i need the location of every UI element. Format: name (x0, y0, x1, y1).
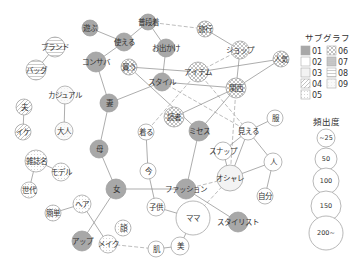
node-ryoko[interactable]: 旅行 (197, 21, 213, 37)
node-label: 人 (270, 158, 278, 167)
node-item[interactable]: アイテム (184, 62, 212, 82)
node-fuku[interactable]: 服 (267, 110, 283, 126)
node-label: 美 (177, 241, 185, 251)
node-kao[interactable]: 顔 (115, 220, 131, 236)
legend-swatch (327, 68, 336, 77)
legend-swatch (301, 68, 310, 77)
node-bi[interactable]: 美 (171, 237, 189, 255)
node-kiru[interactable]: 着る (138, 124, 154, 140)
legend-subgraph-03: 03 (301, 68, 322, 78)
node-ike[interactable]: イケ (15, 124, 31, 140)
legend-swatch (301, 90, 310, 99)
node-mama[interactable]: ママ (176, 201, 210, 235)
node-label: ブランド (41, 42, 69, 52)
node-fashion[interactable]: ファッション (165, 179, 207, 199)
legend-label: 04 (312, 80, 322, 89)
frequency-label: ~25 (319, 134, 333, 142)
node-model[interactable]: モデル (51, 163, 73, 181)
legend-swatch (327, 79, 336, 88)
node-odekake[interactable]: お出かけ (152, 39, 180, 57)
node-casual[interactable]: カジュアル (48, 86, 83, 104)
node-missus[interactable]: ミセス (189, 121, 210, 141)
node-label: スタイル (148, 78, 177, 87)
node-snap[interactable]: スナップ (209, 142, 238, 160)
node-label: 世代 (22, 185, 37, 195)
legend-subgraph-04: 04 (301, 79, 322, 89)
node-label: スタイリスト (217, 218, 259, 227)
node-label: 買う (122, 63, 136, 72)
node-zasshimei[interactable]: 雑誌名 (25, 150, 47, 172)
node-otona[interactable]: 大人 (55, 122, 73, 140)
node-label: 旅行 (198, 24, 213, 34)
node-label: 関西 (229, 84, 244, 93)
frequency-legend-title: 頻出度 (313, 117, 340, 127)
node-label: 妻 (106, 98, 114, 108)
node-label: 母 (96, 145, 104, 154)
legend: サブグラフ 010203040506070809 頻出度 ~2550100150… (301, 33, 350, 250)
node-ninki[interactable]: 人気 (273, 51, 289, 67)
node-shop[interactable]: ショップ (226, 41, 255, 59)
legend-subgraph-05: 05 (301, 90, 322, 100)
legend-swatch (301, 46, 310, 55)
node-kansai[interactable]: 関西 (226, 78, 246, 98)
node-up[interactable]: アップ (72, 231, 94, 251)
legend-label: 03 (312, 69, 322, 78)
node-hair[interactable]: ヘア (73, 195, 91, 213)
legend-swatch (301, 57, 310, 66)
legend-label: 09 (338, 80, 348, 89)
node-label: ヘア (75, 200, 89, 209)
subgraph-legend-title: サブグラフ (305, 33, 350, 43)
node-bag[interactable]: バッグ (26, 60, 48, 80)
node-label: 雑誌名 (26, 156, 47, 166)
node-label: カジュアル (48, 91, 83, 100)
node-label: コンサバ (82, 58, 111, 67)
node-asobu[interactable]: 遊ぶ (82, 20, 98, 36)
node-label: 使える (114, 37, 135, 47)
node-label: 簡単 (46, 208, 61, 218)
node-label: 普段着 (138, 17, 159, 27)
frequency-label: 200~ (317, 229, 335, 237)
node-label: 女 (113, 184, 121, 194)
node-haha[interactable]: 母 (90, 140, 108, 158)
node-label: 顔 (120, 223, 128, 233)
frequency-legend-items: ~2550100150200~ (309, 129, 343, 250)
node-label: 服 (272, 114, 280, 123)
legend-swatch (301, 79, 310, 88)
node-make[interactable]: メイク (98, 235, 119, 253)
frequency-label: 50 (322, 155, 330, 163)
legend-label: 08 (338, 69, 348, 78)
node-kau[interactable]: 買う (121, 59, 137, 75)
node-label: スナップ (209, 147, 238, 156)
legend-subgraph-02: 02 (301, 57, 322, 67)
node-brand[interactable]: ブランド (41, 37, 69, 57)
frequency-label: 150 (320, 202, 332, 210)
node-onna[interactable]: 女 (106, 179, 126, 199)
node-fudangi[interactable]: 普段着 (138, 14, 159, 30)
node-konsaba[interactable]: コンサバ (82, 52, 111, 72)
node-kodomo[interactable]: 子供 (147, 198, 165, 216)
legend-label: 02 (312, 58, 322, 67)
node-tsuma[interactable]: 妻 (100, 94, 118, 112)
node-label: モデル (51, 167, 73, 177)
node-label: 大人 (57, 126, 72, 136)
node-label: ミセス (189, 127, 210, 136)
node-otto[interactable]: 夫 (16, 99, 32, 115)
node-ima[interactable]: 今 (140, 163, 156, 179)
node-oshare[interactable]: オシャレ (216, 165, 244, 191)
node-hada[interactable]: 肌 (148, 241, 164, 257)
node-jibun[interactable]: 自分 (257, 188, 273, 204)
node-label: ママ (186, 214, 200, 223)
node-label: 今 (145, 166, 153, 176)
node-kantan[interactable]: 簡単 (45, 205, 61, 221)
node-label: お出かけ (152, 43, 180, 53)
node-stylist[interactable]: スタイリスト (217, 212, 259, 232)
legend-label: 01 (312, 47, 322, 56)
legend-frequency-2: 100 (313, 168, 339, 194)
node-hito[interactable]: 人 (264, 153, 282, 171)
node-label: 遊ぶ (83, 23, 98, 33)
node-label: 自分 (258, 191, 273, 201)
node-sedai[interactable]: 世代 (21, 182, 37, 198)
node-label: 着る (139, 127, 153, 137)
node-dokusha[interactable]: 読者 (164, 107, 184, 127)
node-label: 肌 (153, 245, 161, 254)
